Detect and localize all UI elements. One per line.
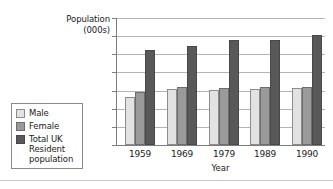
bar <box>125 97 135 145</box>
x-tick-label: 1979 <box>202 149 246 159</box>
bar-group <box>292 18 322 145</box>
bar <box>219 88 229 145</box>
y-tick-mark <box>112 109 116 110</box>
bar <box>135 92 145 145</box>
y-tick-mark <box>112 36 116 37</box>
plot-area: 700006000050000400003000020000100000 195… <box>116 18 325 146</box>
bar <box>187 46 197 145</box>
bar <box>250 89 260 145</box>
y-tick-mark <box>112 127 116 128</box>
bar <box>292 88 302 145</box>
bar-chart-figure: Population (000s) 7000060000500004000030… <box>0 0 333 189</box>
bar <box>270 40 280 145</box>
legend-item: Female <box>16 121 79 131</box>
x-tick-label: 1959 <box>118 149 162 159</box>
legend-item: Total UK Resident population <box>16 134 79 164</box>
legend-swatch <box>16 122 25 131</box>
bar-group <box>167 18 197 145</box>
y-tick-mark <box>112 18 116 19</box>
bar <box>260 87 270 145</box>
bar <box>177 87 187 145</box>
legend-swatch <box>16 135 25 144</box>
bar-group <box>250 18 280 145</box>
bar <box>229 40 239 145</box>
y-axis-title: Population (000s) <box>36 14 110 36</box>
x-tick-label: 1989 <box>243 149 287 159</box>
x-tick-label: 1969 <box>160 149 204 159</box>
x-axis-title: Year <box>116 163 325 173</box>
y-tick-mark <box>112 72 116 73</box>
y-tick-mark <box>112 91 116 92</box>
x-axis-line <box>116 145 325 146</box>
y-tick-mark <box>112 145 116 146</box>
legend-label: Female <box>29 121 59 131</box>
bar <box>167 89 177 145</box>
chart-legend: MaleFemaleTotal UK Resident population <box>11 103 83 169</box>
legend-label: Total UK Resident population <box>29 134 73 164</box>
bar-group <box>209 18 239 145</box>
bar <box>312 35 322 145</box>
bar-group <box>125 18 155 145</box>
legend-label: Male <box>29 108 49 118</box>
x-tick-label: 1990 <box>285 149 329 159</box>
legend-swatch <box>16 109 25 118</box>
legend-item: Male <box>16 108 79 118</box>
y-tick-mark <box>112 54 116 55</box>
bottom-divider <box>0 180 333 181</box>
bar <box>209 90 219 145</box>
bar <box>145 50 155 145</box>
bar <box>302 87 312 145</box>
